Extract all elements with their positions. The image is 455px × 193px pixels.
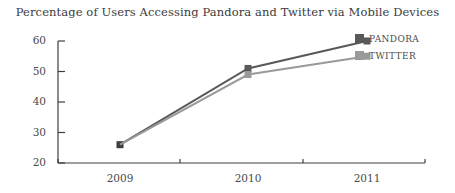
legend-item[interactable]: PANDORA (355, 30, 419, 47)
y-axis-tick-label: 50 (20, 65, 46, 77)
legend-label: PANDORA (369, 34, 419, 44)
y-axis-tick-label: 60 (20, 34, 46, 46)
legend-label: TWITTER (369, 51, 416, 61)
data-point-marker (245, 65, 252, 72)
chart-container: Percentage of Users Accessing Pandora an… (0, 0, 455, 193)
chart-legend: PANDORATWITTER (355, 30, 419, 64)
series-line (120, 41, 367, 145)
data-series (117, 38, 371, 149)
x-axis-tick-label: 2011 (332, 172, 402, 184)
legend-item[interactable]: TWITTER (355, 47, 419, 64)
plot-area (0, 0, 455, 193)
legend-swatch-icon (355, 34, 364, 43)
legend-swatch-icon (355, 51, 364, 60)
data-point-marker (245, 71, 252, 78)
y-axis-tick-label: 40 (20, 95, 46, 107)
series-line (120, 56, 367, 144)
x-axis-tick-label: 2009 (85, 172, 155, 184)
y-axis-tick-label: 30 (20, 126, 46, 138)
x-axis-tick-label: 2010 (213, 172, 283, 184)
y-axis-tick-label: 20 (20, 156, 46, 168)
